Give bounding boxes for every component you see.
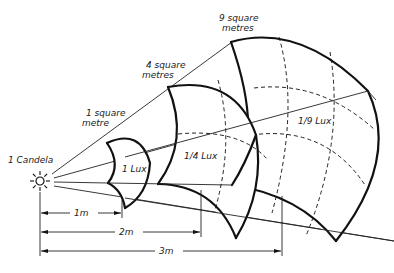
sun-icon (30, 171, 50, 191)
surface-1-illuminance-label: 1 Lux (122, 164, 147, 174)
surface-3-area-label-line1: 9 square (219, 13, 259, 23)
ray-center (54, 182, 108, 183)
surface-3-area-label-line2: metres (222, 23, 254, 33)
surface-1-area-label-line2: metre (82, 118, 110, 128)
surface-1-area-label-line1: 1 square (86, 108, 126, 118)
distance-label-1m: 1m (74, 208, 89, 218)
surface-2-area-label-line1: 4 square (146, 60, 186, 70)
surface-2-area-label-line2: metres (142, 70, 174, 80)
distance-label-3m: 3m (159, 246, 174, 256)
surface-3-illuminance-label: 1/9 Lux (298, 116, 332, 126)
distance-label-2m: 2m (119, 227, 134, 237)
surface-2-illuminance-label: 1/4 Lux (184, 151, 218, 161)
source-label: 1 Candela (8, 155, 53, 165)
inverse-square-law-diagram: 1 Candela 1 square metre 4 square metres… (0, 0, 394, 273)
